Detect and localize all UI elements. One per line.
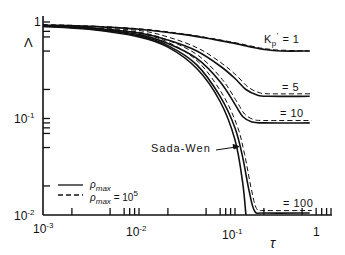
sada-wen-arrow — [216, 145, 239, 151]
curve-k-p-100 — [43, 26, 310, 213]
curves — [43, 25, 312, 215]
x-tick-label-0.1: 10-1 — [222, 228, 242, 241]
y-tick-label-0.01: 10-2 — [14, 209, 34, 222]
curve-label-sada-wen: Sada-Wen — [151, 143, 211, 154]
curve-dashed-k-p-100 — [43, 26, 312, 211]
curve-label-k1: Kp' = 1 — [264, 32, 300, 48]
curve-label-k10: = 10 — [280, 108, 304, 119]
curve-label-k100: = 100 — [283, 198, 313, 209]
y-tick-label-0.1: 10-1 — [14, 112, 34, 125]
x-tick-label-0.001: 10-3 — [33, 222, 53, 235]
x-tick-label-0.01: 10-2 — [126, 225, 146, 238]
legend-lines — [58, 185, 83, 195]
y-axis-label: Λ — [24, 36, 33, 49]
y-tick-label-1: 1 — [34, 16, 41, 28]
x-tick-label-1: 1 — [313, 226, 320, 238]
curve-sada-wen — [43, 26, 246, 215]
x-axis-label: τ — [270, 236, 275, 250]
curve-label-k5: = 5 — [282, 82, 299, 93]
legend-dashed-label: ρmax = 105 — [90, 190, 138, 206]
